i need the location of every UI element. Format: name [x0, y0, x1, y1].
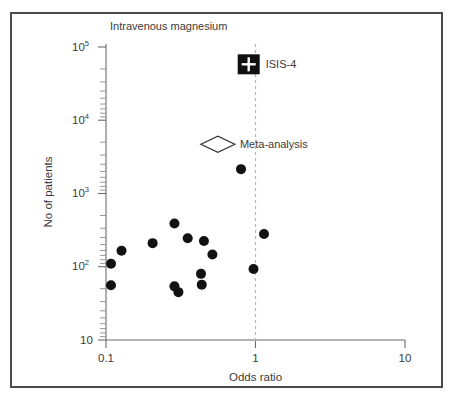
svg-text:104: 104 [72, 112, 89, 126]
svg-text:0.1: 0.1 [98, 352, 114, 364]
svg-text:10: 10 [80, 334, 93, 346]
plot-title: Intravenous magnesium [110, 20, 227, 32]
data-point [207, 249, 217, 259]
y-axis-tick-labels: 105 104 103 102 10 [72, 39, 93, 346]
data-point [197, 280, 207, 290]
data-point [148, 238, 158, 248]
chart-canvas: 105 104 103 102 10 0.1 1 10 Odds ratio N… [0, 0, 454, 399]
x-axis-major-ticks [106, 340, 405, 348]
isis4-marker [238, 54, 260, 74]
isis4-label: ISIS-4 [266, 58, 297, 70]
data-point [199, 236, 209, 246]
svg-text:105: 105 [72, 39, 89, 53]
x-axis-title: Odds ratio [229, 371, 282, 383]
data-point [106, 259, 116, 269]
data-point [183, 233, 193, 243]
svg-text:1: 1 [252, 352, 258, 364]
data-points-small-trials [106, 164, 269, 297]
y-axis-title: No of patients [42, 156, 54, 227]
meta-analysis-diamond-marker [201, 136, 235, 152]
svg-text:102: 102 [72, 258, 89, 272]
data-point [196, 269, 206, 279]
data-point [236, 164, 246, 174]
data-point [249, 264, 259, 274]
x-axis-tick-labels: 0.1 1 10 [98, 352, 411, 364]
data-point [106, 280, 116, 290]
svg-text:103: 103 [72, 185, 89, 199]
data-point [169, 218, 179, 228]
y-axis-minor-ticks [100, 69, 106, 337]
meta-analysis-label: Meta-analysis [240, 138, 308, 150]
data-point [173, 287, 183, 297]
data-point [117, 246, 127, 256]
svg-text:10: 10 [399, 352, 412, 364]
scatter-plot-svg: 105 104 103 102 10 0.1 1 10 Odds ratio N… [0, 0, 454, 399]
data-point [259, 229, 269, 239]
